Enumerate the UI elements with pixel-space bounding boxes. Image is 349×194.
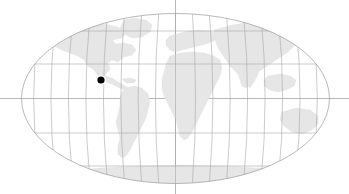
- world-locator-map: [0, 0, 349, 194]
- location-marker-dot[interactable]: [97, 76, 104, 83]
- world-map-canvas: [0, 0, 349, 194]
- location-marker[interactable]: [96, 75, 106, 85]
